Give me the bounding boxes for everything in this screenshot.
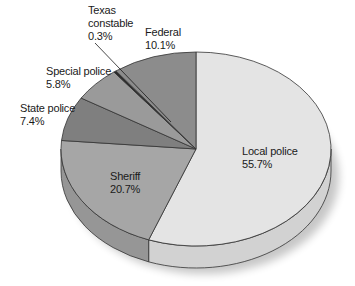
label-sheriff-name: Sheriff bbox=[110, 170, 140, 183]
label-local-police: Local police 55.7% bbox=[242, 145, 298, 171]
label-sheriff: Sheriff 20.7% bbox=[110, 170, 140, 196]
label-local-value: 55.7% bbox=[242, 158, 298, 171]
label-special-police: Special police 5.8% bbox=[46, 65, 111, 91]
label-special-value: 5.8% bbox=[46, 78, 111, 91]
label-local-name: Local police bbox=[242, 145, 298, 158]
label-state-police: State police 7.4% bbox=[20, 102, 75, 128]
label-state-value: 7.4% bbox=[20, 115, 75, 128]
label-federal: Federal 10.1% bbox=[145, 26, 181, 52]
label-texas-constable: Texas constable 0.3% bbox=[88, 4, 133, 43]
label-state-name: State police bbox=[20, 102, 75, 115]
label-sheriff-value: 20.7% bbox=[110, 183, 140, 196]
label-federal-value: 10.1% bbox=[145, 39, 181, 52]
label-texas-value: 0.3% bbox=[88, 30, 133, 43]
label-texas-line2: constable bbox=[88, 17, 133, 30]
label-federal-name: Federal bbox=[145, 26, 181, 39]
label-texas-line1: Texas bbox=[88, 4, 133, 17]
label-special-name: Special police bbox=[46, 65, 111, 78]
